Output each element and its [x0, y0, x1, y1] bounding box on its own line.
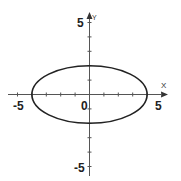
y-axis-label: Y [92, 14, 97, 21]
x-max-label: 5 [155, 99, 162, 113]
x-axis-label: X [161, 81, 167, 90]
x-axis-arrow-icon [161, 92, 168, 98]
coordinate-plane: 5 Y X -5 0 5 -5 [0, 0, 181, 181]
origin-label: 0 [81, 99, 88, 113]
x-min-label: -5 [13, 99, 24, 113]
y-min-label: -5 [74, 161, 85, 175]
y-max-label: 5 [77, 16, 84, 30]
